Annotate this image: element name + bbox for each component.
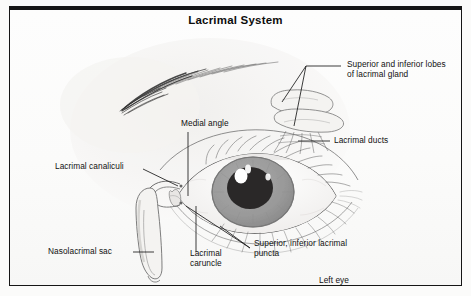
label-lacrimal-caruncle: Lacrimal caruncle: [190, 248, 222, 269]
label-nasolacrimal-sac: Nasolacrimal sac: [48, 246, 112, 256]
label-medial-angle: Medial angle: [181, 118, 229, 128]
label-left-eye: Left eye: [319, 275, 349, 285]
label-lacrimal-ducts: Lacrimal ducts: [334, 135, 388, 145]
label-lacrimal-canaliculi: Lacrimal canaliculi: [55, 161, 124, 171]
label-lacrimal-puncta: Superior, inferior lacrimal puncta: [254, 238, 347, 259]
label-lacrimal-gland-lobes: Superior and inferior lobes of lacrimal …: [347, 59, 446, 80]
eye-illustration: [10, 10, 462, 286]
lacrimal-system-figure: Lacrimal System: [0, 0, 471, 296]
figure-frame: Lacrimal System: [9, 6, 462, 286]
pupil: [227, 167, 273, 209]
